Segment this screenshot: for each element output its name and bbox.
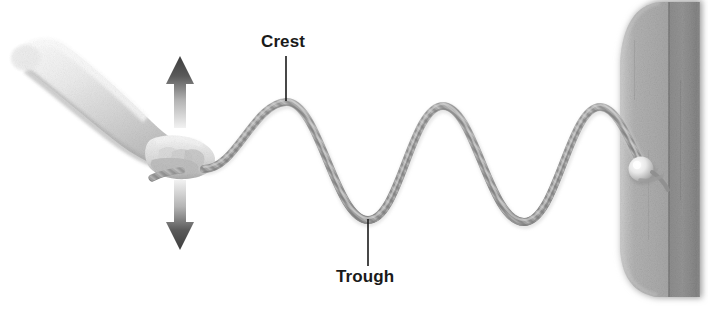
rope-wave	[152, 100, 642, 225]
crest-label: Crest	[261, 33, 305, 50]
down-arrow	[166, 180, 194, 250]
wave-diagram-figure: Crest Trough	[0, 0, 708, 318]
up-arrow	[166, 56, 194, 128]
trough-label: Trough	[336, 268, 394, 285]
